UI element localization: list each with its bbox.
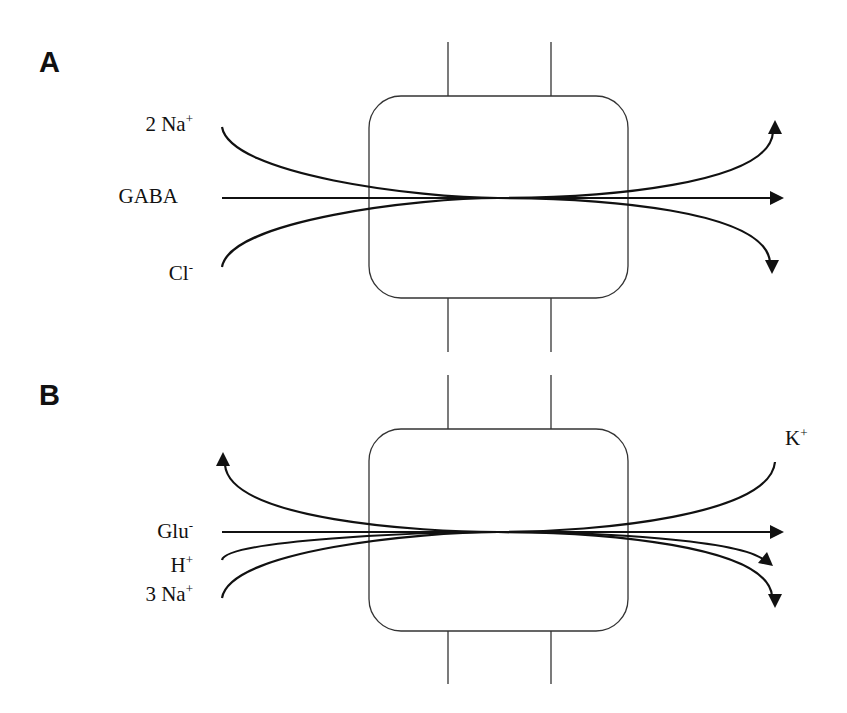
- transporter-box-b: [369, 429, 628, 631]
- arrowhead-right-icon: [770, 525, 784, 539]
- arrowhead-down-icon: [768, 594, 782, 608]
- flux-arrow-cl: [222, 198, 770, 267]
- panel-a: A 2 Na+ GABA Cl-: [39, 42, 784, 352]
- ion-label-na-a: 2 Na+: [145, 111, 193, 136]
- arrowhead-down-right-icon: [758, 552, 773, 566]
- ion-label-glu: Glu-: [157, 518, 193, 543]
- flux-arrow-na-a: [222, 127, 773, 198]
- ion-label-gaba: GABA: [118, 184, 178, 208]
- panel-label-a: A: [39, 46, 60, 78]
- ion-label-k: K+: [785, 425, 808, 450]
- arrowhead-right-icon: [770, 191, 784, 205]
- arrowhead-up-icon: [768, 120, 782, 134]
- arrowhead-down-icon: [765, 260, 779, 274]
- panel-b: B K+ Glu- H+ 3 Na+: [39, 375, 808, 684]
- panel-label-b: B: [39, 379, 60, 411]
- ion-label-h: H+: [170, 552, 193, 577]
- flux-arrow-k: [225, 462, 775, 532]
- transporter-diagram: A 2 Na+ GABA Cl- B K+ Glu- H+ 3 Na: [0, 0, 847, 713]
- ion-label-na-b: 3 Na+: [145, 581, 193, 606]
- arrowhead-up-icon: [216, 452, 230, 466]
- ion-label-cl: Cl-: [169, 260, 193, 285]
